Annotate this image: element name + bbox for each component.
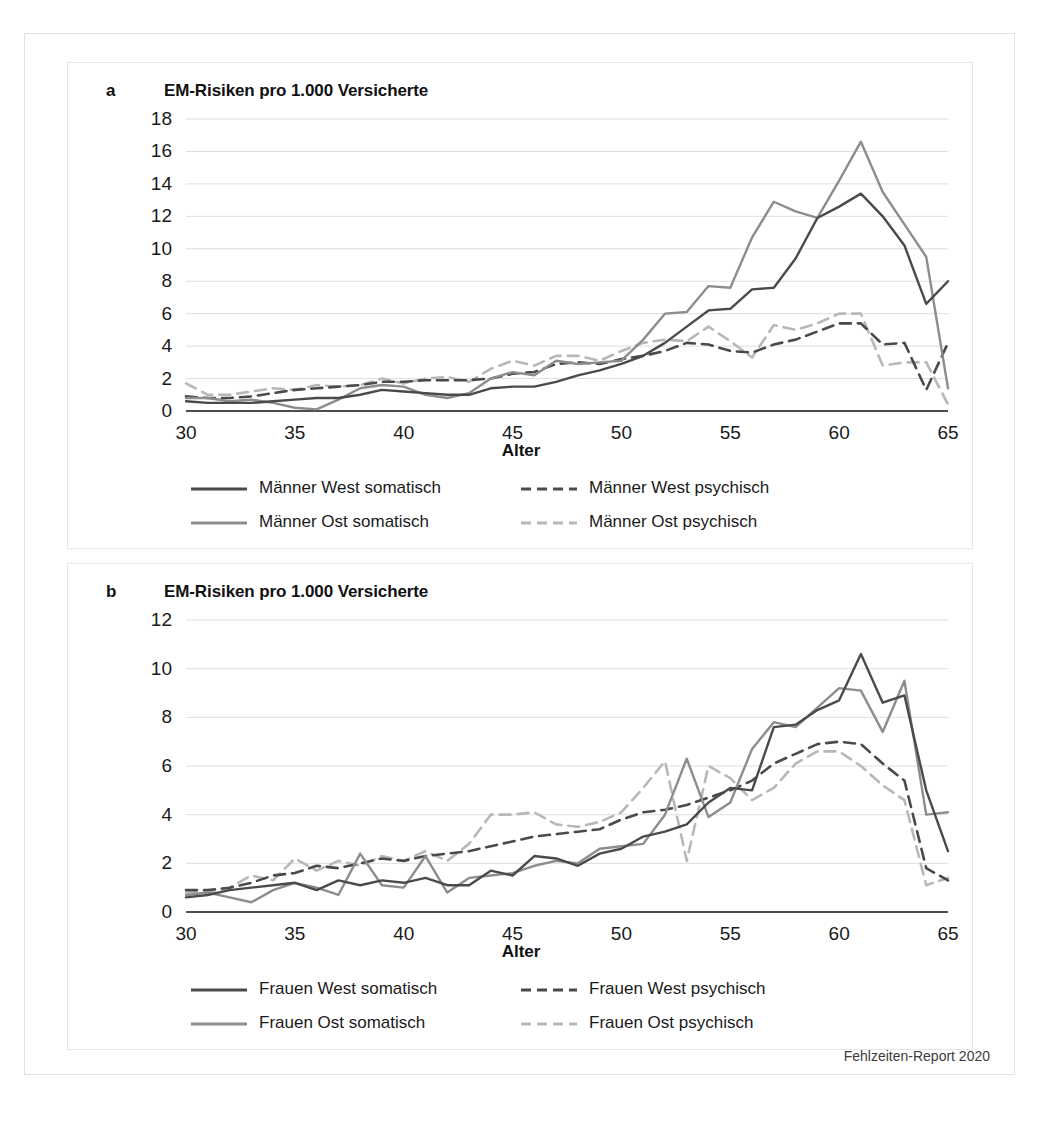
- x-axis-tick-label: 65: [937, 923, 958, 942]
- legend-line-swatch-icon: [191, 515, 247, 529]
- series-line: [186, 742, 948, 890]
- y-axis-tick-label: 0: [161, 901, 172, 922]
- legend-line-swatch-icon: [191, 1016, 247, 1030]
- line-chart-a: 0246810121416183035404550556065: [68, 109, 974, 441]
- x-axis-tick-label: 60: [829, 422, 850, 441]
- panel-a-legend: Männer West somatischMänner West psychis…: [68, 471, 974, 539]
- panel-b-letter: b: [106, 582, 116, 602]
- panel-b-legend: Frauen West somatischFrauen West psychis…: [68, 972, 974, 1040]
- legend-item-label: Frauen West somatisch: [259, 979, 437, 999]
- chart-panel-a: a EM-Risiken pro 1.000 Versicherte 02468…: [67, 62, 973, 549]
- legend-item[interactable]: Männer West somatisch: [191, 478, 521, 498]
- legend-item-label: Frauen Ost psychisch: [589, 1013, 753, 1033]
- y-axis-tick-label: 10: [151, 658, 172, 679]
- legend-line-swatch-icon: [191, 982, 247, 996]
- y-axis-tick-label: 4: [161, 335, 172, 356]
- y-axis-tick-label: 2: [161, 368, 172, 389]
- y-axis-tick-label: 8: [161, 270, 172, 291]
- legend-line-swatch-icon: [521, 982, 577, 996]
- y-axis-tick-label: 12: [151, 205, 172, 226]
- x-axis-tick-label: 45: [502, 923, 523, 942]
- y-axis-tick-label: 6: [161, 755, 172, 776]
- x-axis-tick-label: 35: [284, 422, 305, 441]
- x-axis-tick-label: 55: [720, 923, 741, 942]
- x-axis-tick-label: 50: [611, 422, 632, 441]
- panel-a-header: a EM-Risiken pro 1.000 Versicherte: [68, 81, 972, 107]
- y-axis-tick-label: 8: [161, 706, 172, 727]
- panel-b-plot-area: 0246810123035404550556065: [68, 610, 974, 942]
- legend-row: Frauen Ost somatischFrauen Ost psychisch: [68, 1006, 974, 1040]
- legend-row: Männer Ost somatischMänner Ost psychisch: [68, 505, 974, 539]
- legend-item-label: Männer West psychisch: [589, 478, 769, 498]
- legend-line-swatch-icon: [521, 515, 577, 529]
- panel-b-x-axis-title: Alter: [68, 942, 974, 962]
- panel-a-letter: a: [106, 81, 115, 101]
- line-chart-b: 0246810123035404550556065: [68, 610, 974, 942]
- x-axis-tick-label: 30: [175, 422, 196, 441]
- x-axis-tick-label: 30: [175, 923, 196, 942]
- legend-row: Frauen West somatischFrauen West psychis…: [68, 972, 974, 1006]
- panel-a-title: EM-Risiken pro 1.000 Versicherte: [164, 81, 428, 101]
- panel-a-plot-area: 0246810121416183035404550556065: [68, 109, 974, 441]
- legend-item[interactable]: Frauen Ost psychisch: [521, 1013, 851, 1033]
- y-axis-tick-label: 10: [151, 238, 172, 259]
- legend-item[interactable]: Frauen West somatisch: [191, 979, 521, 999]
- series-line: [186, 142, 948, 410]
- panel-b-title: EM-Risiken pro 1.000 Versicherte: [164, 582, 428, 602]
- x-axis-tick-label: 55: [720, 422, 741, 441]
- panel-b-header: b EM-Risiken pro 1.000 Versicherte: [68, 582, 972, 608]
- legend-item[interactable]: Frauen Ost somatisch: [191, 1013, 521, 1033]
- legend-item[interactable]: Frauen West psychisch: [521, 979, 851, 999]
- x-axis-tick-label: 60: [829, 923, 850, 942]
- x-axis-tick-label: 45: [502, 422, 523, 441]
- legend-item-label: Frauen West psychisch: [589, 979, 765, 999]
- y-axis-tick-label: 18: [151, 109, 172, 129]
- legend-item-label: Männer Ost psychisch: [589, 512, 757, 532]
- source-note: Fehlzeiten-Report 2020: [844, 1048, 990, 1064]
- legend-item[interactable]: Männer West psychisch: [521, 478, 851, 498]
- x-axis-tick-label: 65: [937, 422, 958, 441]
- x-axis-tick-label: 35: [284, 923, 305, 942]
- series-line: [186, 194, 948, 403]
- legend-line-swatch-icon: [521, 481, 577, 495]
- legend-item-label: Frauen Ost somatisch: [259, 1013, 425, 1033]
- x-axis-tick-label: 50: [611, 923, 632, 942]
- y-axis-tick-label: 14: [151, 173, 173, 194]
- x-axis-tick-label: 40: [393, 422, 414, 441]
- y-axis-tick-label: 4: [161, 804, 172, 825]
- panel-a-x-axis-title: Alter: [68, 441, 974, 461]
- series-line: [186, 314, 948, 405]
- series-line: [186, 681, 948, 902]
- legend-row: Männer West somatischMänner West psychis…: [68, 471, 974, 505]
- legend-line-swatch-icon: [191, 481, 247, 495]
- legend-item[interactable]: Männer Ost psychisch: [521, 512, 851, 532]
- legend-line-swatch-icon: [521, 1016, 577, 1030]
- chart-panel-b: b EM-Risiken pro 1.000 Versicherte 02468…: [67, 563, 973, 1050]
- y-axis-tick-label: 0: [161, 400, 172, 421]
- legend-item-label: Männer West somatisch: [259, 478, 441, 498]
- x-axis-tick-label: 40: [393, 923, 414, 942]
- y-axis-tick-label: 6: [161, 303, 172, 324]
- figure-outer-frame: a EM-Risiken pro 1.000 Versicherte 02468…: [24, 33, 1015, 1075]
- y-axis-tick-label: 2: [161, 852, 172, 873]
- legend-item[interactable]: Männer Ost somatisch: [191, 512, 521, 532]
- y-axis-tick-label: 12: [151, 610, 172, 630]
- series-line: [186, 323, 948, 398]
- legend-item-label: Männer Ost somatisch: [259, 512, 429, 532]
- y-axis-tick-label: 16: [151, 140, 172, 161]
